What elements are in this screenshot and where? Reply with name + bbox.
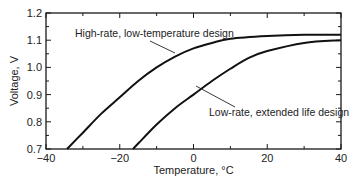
annotation-callouts: High-rate, low-temperature designLow-rat… <box>75 27 349 118</box>
x-tick-label: 0 <box>190 152 196 164</box>
y-tick-label: 0.7 <box>27 143 42 155</box>
x-tick-label: −20 <box>110 152 129 164</box>
series-curve-0 <box>67 35 341 149</box>
y-tick-label: 1.0 <box>27 61 42 73</box>
annotation-low-rate: Low-rate, extended life design <box>209 106 349 118</box>
data-curves <box>67 35 341 149</box>
y-tick-label: 1.2 <box>27 7 42 19</box>
voltage-temperature-chart: −40−20020400.70.80.91.01.11.2 High-rate,… <box>0 0 359 181</box>
callout-leader-high-rate <box>150 41 175 53</box>
x-tick-label: 20 <box>261 152 273 164</box>
y-tick-label: 0.9 <box>27 89 42 101</box>
x-axis-title: Temperature, °C <box>153 164 233 176</box>
y-tick-label: 1.1 <box>27 34 42 46</box>
x-tick-label: 40 <box>335 152 347 164</box>
series-curve-1 <box>133 40 341 149</box>
y-axis-title: Voltage, V <box>8 55 20 106</box>
callout-leader-low-rate <box>196 86 235 107</box>
y-tick-label: 0.8 <box>27 116 42 128</box>
annotation-high-rate: High-rate, low-temperature design <box>75 27 234 39</box>
